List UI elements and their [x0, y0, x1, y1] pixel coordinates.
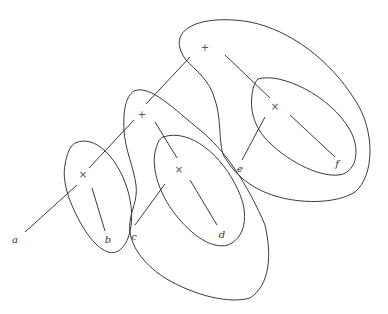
edge-ef-e: [242, 117, 265, 160]
leaf-label-d: d: [219, 229, 225, 240]
node-marker-ef-pair: ×: [271, 101, 279, 112]
node-marker-root: +: [201, 42, 209, 53]
leaf-label-a: a: [12, 234, 18, 245]
node-marker-mid: +: [138, 109, 146, 120]
edge-ef-f: [290, 115, 335, 157]
edge-cd-c: [135, 184, 165, 225]
leaf-label-c: c: [131, 231, 137, 242]
node-marker-left-pair: ×: [79, 169, 87, 180]
edge-left-a: [25, 185, 77, 232]
cluster-outline-ef: [251, 78, 356, 175]
edge-mid-cd: [155, 122, 177, 158]
cluster-outline-mid: [124, 90, 269, 300]
edge-root-ef: [225, 55, 270, 98]
node-marker-cd-pair: ×: [175, 164, 183, 175]
leaf-label-b: b: [105, 234, 111, 245]
edge-left-b: [92, 188, 105, 231]
edge-cd-d: [190, 180, 217, 225]
leaf-label-e: e: [237, 163, 243, 174]
leaf-label-f: f: [334, 158, 341, 169]
cluster-diagram: + + × × × a b c d e f: [0, 0, 388, 314]
edge-root-mid: [146, 57, 190, 104]
cluster-outline-cd: [154, 135, 244, 246]
